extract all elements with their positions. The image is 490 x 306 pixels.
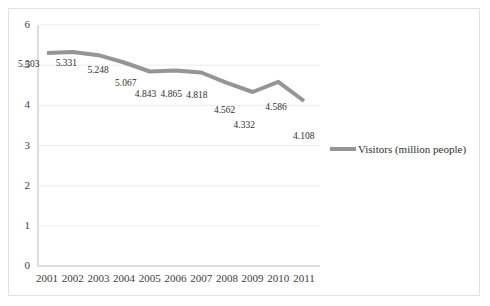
x-tick-label: 2011	[287, 272, 321, 284]
y-tick-label: 6	[8, 18, 30, 30]
legend: Visitors (million people)	[330, 143, 466, 155]
data-point-label: 5.248	[87, 65, 108, 75]
data-point-label: 4.562	[214, 105, 235, 115]
y-tick-label: 1	[8, 219, 30, 231]
data-point-label: 4.818	[186, 90, 207, 100]
y-tick-label: 0	[8, 259, 30, 271]
legend-label-visitors: Visitors (million people)	[358, 143, 466, 155]
y-tick-label: 3	[8, 139, 30, 151]
data-point-label: 4.865	[161, 89, 182, 99]
data-point-label: 4.108	[293, 131, 314, 141]
legend-swatch-visitors	[330, 147, 356, 151]
data-point-label: 4.332	[234, 120, 255, 130]
y-tick-label: 4	[8, 98, 30, 110]
y-tick-label: 2	[8, 179, 30, 191]
data-point-label: 4.586	[265, 102, 286, 112]
data-point-label: 5.303	[18, 59, 39, 69]
data-point-label: 5.331	[56, 58, 77, 68]
data-point-label: 5.067	[115, 78, 136, 88]
data-point-label: 4.843	[135, 89, 156, 99]
gridlines	[38, 25, 320, 266]
